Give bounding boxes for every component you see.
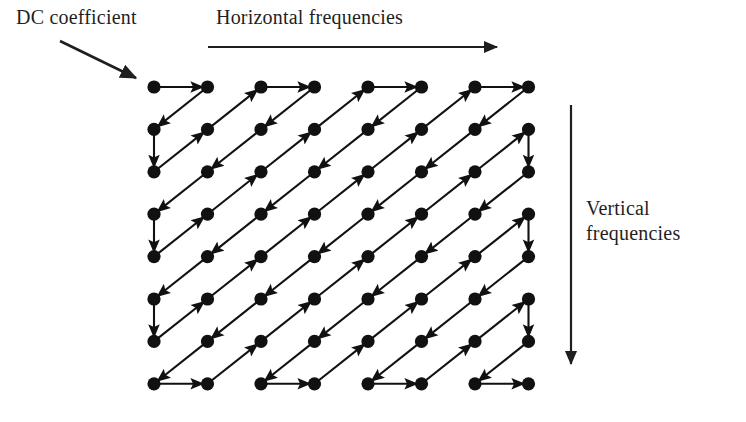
coefficient-dot xyxy=(308,80,321,93)
zigzag-segment xyxy=(371,217,418,255)
coefficient-dot xyxy=(201,123,214,136)
coefficient-dot xyxy=(468,335,481,348)
zigzag-segment xyxy=(424,344,471,382)
zigzag-segment xyxy=(211,132,258,170)
coefficient-dot xyxy=(147,165,160,178)
coefficient-dot xyxy=(522,208,535,221)
zigzag-segment xyxy=(424,174,471,212)
coefficient-dot xyxy=(522,80,535,93)
coefficient-dot xyxy=(254,208,267,221)
zigzag-segment xyxy=(264,174,311,212)
coefficient-dot xyxy=(361,208,374,221)
zigzag-segment xyxy=(210,90,257,128)
horizontal-frequencies-label: Horizontal frequencies xyxy=(216,6,403,29)
coefficient-dot xyxy=(308,292,321,305)
coefficient-dot xyxy=(254,80,267,93)
zigzag-segment xyxy=(371,174,418,212)
zigzag-segment xyxy=(318,216,365,254)
coefficient-dot xyxy=(361,377,374,390)
zigzag-segment xyxy=(371,344,418,382)
zigzag-segment xyxy=(317,344,364,382)
zigzag-segment xyxy=(318,132,365,170)
zigzag-segment xyxy=(371,259,418,297)
coefficient-dot xyxy=(468,80,481,93)
coefficient-dot xyxy=(468,250,481,263)
coefficient-dot xyxy=(415,377,428,390)
zigzag-segment xyxy=(318,301,365,339)
zigzag-segment xyxy=(317,90,364,128)
coefficient-dot xyxy=(468,123,481,136)
coefficient-dot xyxy=(361,250,374,263)
coefficient-dot xyxy=(308,165,321,178)
coefficient-dot xyxy=(522,292,535,305)
zigzag-segment xyxy=(264,302,311,340)
coefficient-dot xyxy=(415,250,428,263)
coefficient-dot xyxy=(201,80,214,93)
coefficient-dot xyxy=(415,123,428,136)
coefficient-dot xyxy=(201,377,214,390)
vertical-frequencies-label: Vertical frequencies xyxy=(586,196,736,246)
coefficient-dot xyxy=(147,377,160,390)
zigzag-segment xyxy=(478,89,525,127)
coefficient-dot xyxy=(522,377,535,390)
coefficient-dot xyxy=(415,335,428,348)
coefficient-dot xyxy=(201,165,214,178)
coefficient-dot xyxy=(361,80,374,93)
coefficient-dot xyxy=(308,123,321,136)
coefficient-dot xyxy=(201,292,214,305)
coefficient-dot xyxy=(468,165,481,178)
zigzag-segment xyxy=(157,217,204,255)
zigzag-segment xyxy=(478,174,525,212)
zigzag-segment xyxy=(478,132,525,170)
coefficient-dot xyxy=(201,208,214,221)
coefficient-dot xyxy=(308,335,321,348)
zigzag-segment xyxy=(371,132,418,170)
coefficient-dot xyxy=(254,292,267,305)
coefficient-dot xyxy=(468,377,481,390)
coefficient-dot xyxy=(415,208,428,221)
coefficient-dot xyxy=(361,335,374,348)
coefficient-dot xyxy=(254,123,267,136)
zigzag-segment xyxy=(210,259,257,297)
coefficient-dot xyxy=(147,80,160,93)
coefficient-dot xyxy=(415,165,428,178)
coefficient-dot xyxy=(147,292,160,305)
zigzag-segment xyxy=(317,259,364,297)
zigzag-segment xyxy=(211,301,258,339)
zigzag-segment xyxy=(317,174,364,212)
zigzag-segment xyxy=(371,302,418,340)
zigzag-segment xyxy=(210,344,257,382)
zigzag-segment xyxy=(264,89,311,127)
coefficient-dot xyxy=(201,250,214,263)
zigzag-segment xyxy=(157,174,204,212)
coefficient-dot xyxy=(254,377,267,390)
coefficient-dot xyxy=(254,335,267,348)
coefficient-dot xyxy=(308,208,321,221)
zigzag-segment xyxy=(157,89,204,127)
zigzag-segment xyxy=(264,217,311,255)
zigzag-segment xyxy=(157,132,204,170)
zigzag-segment xyxy=(478,302,525,340)
zigzag-segment xyxy=(425,216,472,254)
coefficient-dot xyxy=(415,80,428,93)
zigzag-segment xyxy=(424,90,471,128)
dc-pointer-arrow xyxy=(60,41,136,78)
coefficient-dot xyxy=(361,165,374,178)
zigzag-segment xyxy=(478,344,525,382)
zigzag-segment xyxy=(425,301,472,339)
coefficient-dot xyxy=(254,165,267,178)
coefficient-dot xyxy=(522,335,535,348)
coefficient-dot xyxy=(147,208,160,221)
coefficient-dot xyxy=(468,208,481,221)
coefficient-dot xyxy=(468,292,481,305)
zigzag-segment xyxy=(478,217,525,255)
coefficient-dot xyxy=(147,250,160,263)
zigzag-segment xyxy=(264,344,311,382)
zigzag-segment xyxy=(157,259,204,297)
coefficient-dot xyxy=(147,335,160,348)
coefficient-dot xyxy=(415,292,428,305)
coefficient-dot xyxy=(522,250,535,263)
zigzag-segment xyxy=(210,174,257,212)
dc-coefficient-label: DC coefficient xyxy=(16,6,137,29)
zigzag-segment xyxy=(264,132,311,170)
